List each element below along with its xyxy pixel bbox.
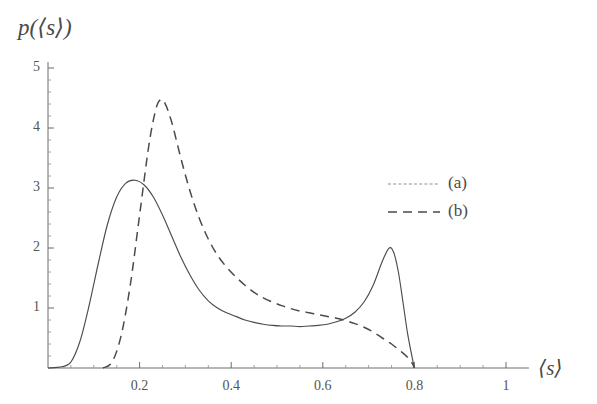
y-tick-label: 5 <box>24 59 40 75</box>
x-tick-label: 0.6 <box>310 378 336 394</box>
series-curve-b <box>103 99 414 368</box>
plot-area <box>0 0 597 404</box>
x-tick-label: 0.4 <box>218 378 244 394</box>
legend-label-a: (a) <box>448 173 467 193</box>
y-tick-label: 1 <box>24 299 40 315</box>
y-tick-label: 4 <box>24 119 40 135</box>
x-tick-label: 0.2 <box>127 378 153 394</box>
probability-distribution-chart: p(⟨s⟩) ⟨s⟩ 0.20.40.60.8112345 (a) (b) <box>0 0 597 404</box>
x-tick-label: 1 <box>493 378 519 394</box>
y-axis-label: p(⟨s⟩) <box>18 14 72 41</box>
x-tick-label: 0.8 <box>401 378 427 394</box>
x-axis-label: ⟨s⟩ <box>538 356 563 381</box>
y-tick-label: 2 <box>24 239 40 255</box>
legend-label-b: (b) <box>448 201 468 221</box>
series-curve-a <box>48 180 414 368</box>
y-tick-label: 3 <box>24 179 40 195</box>
